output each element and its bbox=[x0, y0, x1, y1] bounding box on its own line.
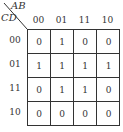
kmap-cell: 0 bbox=[28, 78, 51, 102]
kmap-cell: 1 bbox=[51, 78, 74, 102]
kmap-grid: 0 1 0 0 1 1 1 1 0 1 1 0 0 0 0 0 bbox=[27, 29, 120, 126]
kmap-cell: 0 bbox=[74, 30, 97, 54]
column-header: 00 bbox=[27, 15, 50, 25]
column-header: 10 bbox=[96, 15, 119, 25]
kmap-cell: 0 bbox=[97, 78, 120, 102]
kmap-cell: 0 bbox=[97, 102, 120, 126]
kmap-cell: 1 bbox=[97, 54, 120, 78]
kmap-cell: 1 bbox=[74, 54, 97, 78]
row-header: 00 bbox=[6, 35, 24, 45]
column-header: 01 bbox=[50, 15, 73, 25]
kmap-cell: 0 bbox=[74, 102, 97, 126]
kmap-cell: 1 bbox=[51, 30, 74, 54]
column-header: 11 bbox=[73, 15, 96, 25]
row-header: 01 bbox=[6, 59, 24, 69]
row-variable-label: CD bbox=[1, 12, 17, 23]
row-header: 11 bbox=[6, 83, 24, 93]
kmap-cell: 1 bbox=[74, 78, 97, 102]
row-header: 10 bbox=[6, 107, 24, 117]
column-variable-label: AB bbox=[11, 0, 26, 11]
kmap-cell: 1 bbox=[51, 54, 74, 78]
kmap-cell: 1 bbox=[28, 54, 51, 78]
kmap-cell: 0 bbox=[28, 30, 51, 54]
kmap-cell: 0 bbox=[97, 30, 120, 54]
kmap-cell: 0 bbox=[28, 102, 51, 126]
kmap-cell: 0 bbox=[51, 102, 74, 126]
